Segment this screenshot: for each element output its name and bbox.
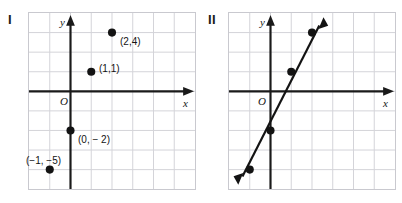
x-axis-label: x <box>183 98 188 109</box>
data-point <box>87 68 95 76</box>
point-label-neg1-neg5: (−1, −5) <box>26 156 61 166</box>
two-panel-graph-figure: I <box>0 0 402 203</box>
panel-two-numeral: II <box>208 13 216 26</box>
line-arrow-down <box>234 173 244 185</box>
panel-one-plot-area: y x O (2,4) (1,1) (0, − 2) (−1, −5) <box>28 12 196 190</box>
origin-label: O <box>258 96 266 107</box>
data-point <box>108 29 116 37</box>
point-label-0-neg2: (0, − 2) <box>78 135 110 145</box>
y-axis-label: y <box>260 17 265 28</box>
data-point <box>246 166 254 174</box>
panel-two-plot-area: y x O <box>228 12 396 190</box>
data-point <box>66 126 74 134</box>
data-point <box>287 68 295 76</box>
data-point <box>46 166 54 174</box>
line-arrow-up <box>319 17 329 29</box>
panel-two: II <box>201 0 402 203</box>
panel-one-numeral: I <box>8 13 12 26</box>
data-point <box>266 126 274 134</box>
plotted-line <box>242 25 319 176</box>
point-label-1-1: (1,1) <box>99 64 120 74</box>
point-label-2-4: (2,4) <box>120 37 141 47</box>
x-axis-label: x <box>383 98 388 109</box>
y-axis-label: y <box>60 17 65 28</box>
panel-two-line-and-points <box>229 13 395 189</box>
origin-label: O <box>60 96 68 107</box>
panel-one: I <box>0 0 201 203</box>
data-point <box>308 29 316 37</box>
